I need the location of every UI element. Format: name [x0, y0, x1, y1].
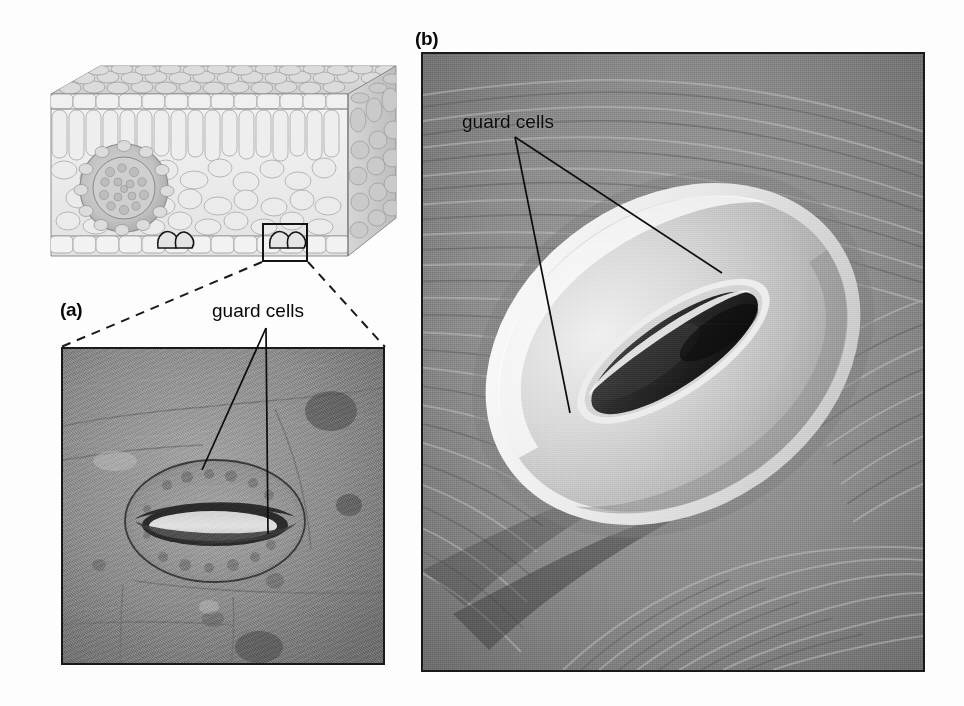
panel-a-micrograph — [61, 347, 385, 665]
panel-b-guard-cells-label: guard cells — [462, 111, 554, 133]
upper-epidermis-layer — [50, 94, 350, 109]
leaf-side-face — [348, 66, 398, 256]
panel-b-letter: (b) — [415, 28, 438, 50]
leaf-block-diagram — [48, 58, 398, 270]
figure-root: (a) guard cells — [0, 0, 964, 706]
panel-a-guard-cells-label: guard cells — [212, 300, 304, 322]
panel-b-film-grain — [423, 54, 923, 670]
inset-magnification-box — [262, 223, 308, 262]
panel-a-film-grain — [63, 349, 383, 663]
upper-epidermis-top-face — [51, 64, 397, 94]
panel-a-letter: (a) — [60, 299, 82, 321]
panel-b-micrograph — [421, 52, 925, 672]
